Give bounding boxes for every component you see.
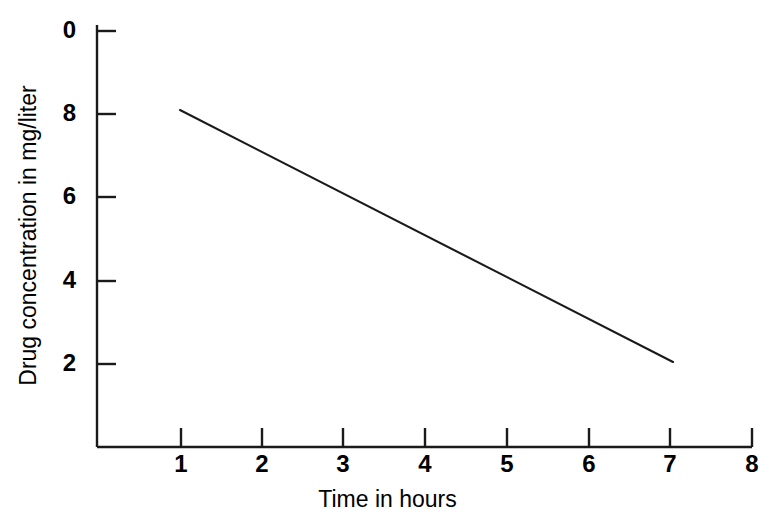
y-axis-ticks xyxy=(97,31,116,364)
x-tick-label-4: 4 xyxy=(405,452,445,476)
line-chart: 0 8 6 4 2 1 2 3 4 5 6 7 8 Drug concentra… xyxy=(0,0,775,527)
x-axis-title: Time in hours xyxy=(0,486,775,513)
chart-page: 0 8 6 4 2 1 2 3 4 5 6 7 8 Drug concentra… xyxy=(0,0,775,527)
y-axis-title: Drug concentration in mg/liter xyxy=(15,85,42,385)
x-tick-label-1: 1 xyxy=(161,452,201,476)
data-series-line xyxy=(180,110,673,362)
x-tick-label-8: 8 xyxy=(732,452,772,476)
x-axis-ticks xyxy=(181,428,752,447)
x-tick-label-2: 2 xyxy=(242,452,282,476)
x-tick-label-3: 3 xyxy=(323,452,363,476)
x-tick-label-7: 7 xyxy=(650,452,690,476)
chart-canvas xyxy=(0,0,775,527)
x-tick-label-5: 5 xyxy=(487,452,527,476)
x-tick-label-6: 6 xyxy=(569,452,609,476)
y-axis-title-wrapper: Drug concentration in mg/liter xyxy=(0,0,56,470)
